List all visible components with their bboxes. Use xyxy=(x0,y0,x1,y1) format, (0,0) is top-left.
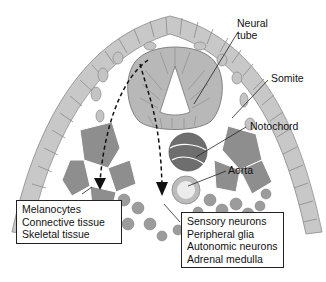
somite-right xyxy=(214,126,272,194)
neural-tube-label: Neural tube xyxy=(237,17,268,41)
derivative-item: Autonomic neurons xyxy=(187,240,278,253)
neural-tube-label-line2: tube xyxy=(237,29,268,41)
aorta-label: Aorta xyxy=(228,164,253,176)
ventral-derivatives-box: Sensory neurons Peripheral glia Autonomi… xyxy=(181,212,284,268)
dorsolateral-derivatives-box: Melanocytes Connective tissue Skeletal t… xyxy=(16,200,122,244)
somite-label: Somite xyxy=(271,72,304,84)
derivative-item: Connective tissue xyxy=(22,216,116,229)
neural-tube xyxy=(128,47,223,130)
notochord xyxy=(169,133,207,171)
derivative-item: Melanocytes xyxy=(22,203,116,216)
aorta xyxy=(172,176,200,204)
derivative-item: Skeletal tissue xyxy=(22,228,116,241)
derivative-item: Peripheral glia xyxy=(187,228,278,241)
neural-tube-label-line1: Neural xyxy=(237,17,268,29)
derivative-item: Adrenal medulla xyxy=(187,253,278,266)
notochord-label: Notochord xyxy=(250,120,298,132)
derivative-item: Sensory neurons xyxy=(187,215,278,228)
